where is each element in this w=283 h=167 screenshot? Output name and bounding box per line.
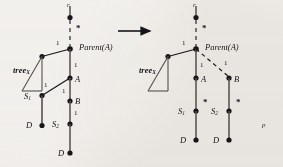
left-label-d-left: D	[26, 121, 32, 130]
left-label-parent-a: Parent(A)	[79, 43, 113, 52]
left-label-subtree-text: tree	[13, 65, 26, 75]
left-label-s2: S2	[52, 120, 59, 130]
left-label-s2-subscript: 2	[56, 123, 59, 129]
left-node-d-right	[67, 150, 72, 155]
right-label-a: A	[201, 75, 206, 84]
left-marker-star-root: *	[76, 24, 81, 33]
right-label-s2: S2	[211, 107, 218, 117]
left-label-a: A	[75, 75, 80, 84]
right-node-d-right	[226, 137, 231, 142]
left-weight-b-s2: 1	[74, 110, 78, 117]
right-marker-star-s1: *	[203, 98, 208, 107]
right-label-parent-a: Parent(A)	[205, 43, 239, 52]
right-diagram	[148, 6, 232, 143]
left-weight-apex-parent: 1	[56, 40, 60, 47]
left-node-d-left	[39, 123, 44, 128]
right-node-d-left	[193, 137, 198, 142]
right-marker-star-root: *	[202, 24, 207, 33]
left-label-subtree-subscript: X	[26, 69, 30, 75]
right-label-subtree: treeX	[139, 66, 156, 76]
right-weight-apex-parent: 1	[182, 40, 186, 47]
figure-canvas: r * 1 Parent(A) treeX 1 A 1 1 B S1 1 D S…	[0, 0, 283, 167]
left-weight-parent-a: 1	[74, 62, 78, 69]
left-label-s1: S1	[24, 92, 31, 102]
right-label-subtree-text: tree	[139, 65, 152, 75]
right-edge-apex-parent	[168, 49, 196, 57]
right-weight-parent-a: 1	[200, 62, 204, 69]
right-label-d-right: D	[213, 136, 219, 145]
left-label-subtree: treeX	[13, 66, 30, 76]
right-marker-star-s2: *	[236, 98, 241, 107]
figure-vector-graphics	[0, 0, 283, 167]
left-label-b: B	[75, 97, 80, 106]
right-node-r	[193, 15, 198, 20]
right-label-s1-subscript: 1	[182, 110, 185, 116]
left-node-r	[67, 15, 72, 20]
left-weight-triangle: 1	[44, 82, 48, 89]
right-label-d-left: D	[180, 136, 186, 145]
left-edge-apex-parent	[42, 49, 70, 57]
right-label-b: B	[234, 75, 239, 84]
right-label-r: r	[193, 2, 196, 9]
left-label-d-right: D	[58, 149, 64, 158]
right-label-s2-subscript: 2	[215, 110, 218, 116]
right-label-subtree-subscript: X	[152, 69, 156, 75]
left-label-s1-subscript: 1	[28, 95, 31, 101]
right-label-s1: S1	[178, 107, 185, 117]
right-weight-parent-b: 1	[224, 60, 228, 67]
corner-mark: p	[262, 122, 266, 129]
left-weight-a-b: 1	[62, 88, 66, 95]
left-label-r: r	[67, 2, 70, 9]
